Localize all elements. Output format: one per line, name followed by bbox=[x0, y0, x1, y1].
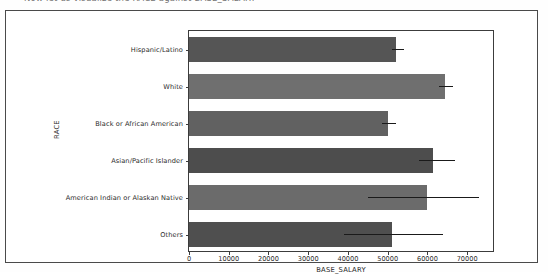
error-bar bbox=[439, 86, 453, 88]
y-axis-tick bbox=[186, 124, 189, 125]
x-axis-tick bbox=[189, 251, 190, 255]
bar bbox=[189, 111, 388, 136]
x-axis-tick-label: 20000 bbox=[258, 256, 279, 263]
figure-border: RACE Hispanic/LatinoWhiteBlack or Africa… bbox=[5, 10, 538, 263]
error-bar bbox=[419, 160, 455, 162]
bar-row: White bbox=[189, 74, 495, 99]
y-axis-tick-label: White bbox=[163, 83, 183, 90]
y-axis-tick bbox=[186, 198, 189, 199]
y-axis-tick-label: American Indian or Alaskan Native bbox=[66, 194, 183, 201]
y-axis-tick-label: Black or African American bbox=[95, 120, 183, 127]
y-axis-tick-label: Hispanic/Latino bbox=[131, 46, 183, 53]
x-axis-tick bbox=[388, 251, 389, 255]
x-axis-tick-label: 70000 bbox=[457, 256, 478, 263]
x-axis-tick bbox=[348, 251, 349, 255]
x-axis-tick-label: 0 bbox=[187, 256, 191, 263]
y-axis-tick-label: Asian/Pacific Islander bbox=[111, 157, 183, 164]
x-axis-tick bbox=[427, 251, 428, 255]
x-axis-title: BASE_SALARY bbox=[316, 266, 366, 274]
error-bar bbox=[344, 234, 443, 236]
error-bar bbox=[392, 49, 404, 51]
x-axis-tick bbox=[268, 251, 269, 255]
error-bar bbox=[382, 123, 396, 125]
bar bbox=[189, 37, 396, 62]
bar-row: Others bbox=[189, 222, 495, 247]
y-axis-title: RACE bbox=[53, 120, 61, 139]
error-bar bbox=[368, 197, 479, 199]
bar-row: American Indian or Alaskan Native bbox=[189, 185, 495, 210]
x-axis-tick-label: 40000 bbox=[337, 256, 358, 263]
y-axis-tick bbox=[186, 87, 189, 88]
y-axis-tick-label: Others bbox=[160, 231, 183, 238]
bar-row: Hispanic/Latino bbox=[189, 37, 495, 62]
bar-row: Asian/Pacific Islander bbox=[189, 148, 495, 173]
bar bbox=[189, 148, 433, 173]
x-axis-tick bbox=[308, 251, 309, 255]
x-axis-tick bbox=[229, 251, 230, 255]
plot-area: Hispanic/LatinoWhiteBlack or African Ame… bbox=[189, 31, 493, 251]
y-axis-tick bbox=[186, 50, 189, 51]
x-axis-tick-label: 50000 bbox=[377, 256, 398, 263]
x-axis-tick-label: 30000 bbox=[298, 256, 319, 263]
x-axis-tick-label: 60000 bbox=[417, 256, 438, 263]
clipped-heading-text: Now let us visualize the RACE against BA… bbox=[24, 0, 254, 3]
x-axis-tick bbox=[467, 251, 468, 255]
plot-axes: Hispanic/LatinoWhiteBlack or African Ame… bbox=[188, 30, 494, 252]
bar-row: Black or African American bbox=[189, 111, 495, 136]
y-axis-tick bbox=[186, 235, 189, 236]
y-axis-tick bbox=[186, 161, 189, 162]
x-axis-tick-label: 10000 bbox=[218, 256, 239, 263]
bar bbox=[189, 74, 445, 99]
